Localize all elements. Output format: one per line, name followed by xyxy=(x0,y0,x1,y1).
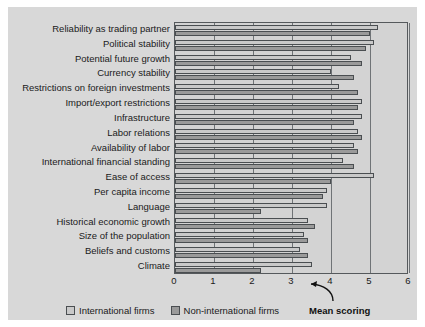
bar-row xyxy=(175,127,407,142)
bar-non-international-firms xyxy=(175,253,308,258)
bar-row xyxy=(175,23,407,38)
legend-label: Non-international firms xyxy=(184,305,280,316)
bar-row xyxy=(175,112,407,127)
bar-non-international-firms xyxy=(175,179,331,184)
bar-row xyxy=(175,53,407,68)
bar-row xyxy=(175,38,407,53)
bar-non-international-firms xyxy=(175,46,366,51)
bar-international-firms xyxy=(175,262,312,267)
chart-figure: Reliability as trading partnerPolitical … xyxy=(0,0,425,327)
bar-international-firms xyxy=(175,25,378,30)
bar-row xyxy=(175,260,407,275)
x-axis-tick-labels: 0123456 xyxy=(174,275,408,289)
bar-international-firms xyxy=(175,69,331,74)
bar-non-international-firms xyxy=(175,105,358,110)
x-axis-title: Mean scoring xyxy=(309,305,370,316)
bar-non-international-firms xyxy=(175,164,354,169)
bar-row xyxy=(175,142,407,157)
plot-area xyxy=(174,22,408,274)
chart-legend: International firms Non-international fi… xyxy=(66,302,370,318)
category-label: Per capita income xyxy=(94,187,170,197)
bar-international-firms xyxy=(175,55,351,60)
category-label: Ease of access xyxy=(106,172,170,182)
bar-international-firms xyxy=(175,203,327,208)
category-label: Political stability xyxy=(103,39,170,49)
x-tick-label: 6 xyxy=(405,275,410,286)
bar-row xyxy=(175,97,407,112)
x-tick-label: 2 xyxy=(249,275,254,286)
category-label: Language xyxy=(128,202,170,212)
bar-non-international-firms xyxy=(175,209,261,214)
legend-swatch-icon xyxy=(66,306,75,315)
bar-non-international-firms xyxy=(175,75,354,80)
x-tick-label: 5 xyxy=(366,275,371,286)
bar-row xyxy=(175,231,407,246)
category-label: Beliefs and customs xyxy=(85,246,170,256)
bar-non-international-firms xyxy=(175,224,315,229)
category-label: Currency stability xyxy=(97,68,170,78)
bar-non-international-firms xyxy=(175,238,308,243)
bar-row xyxy=(175,201,407,216)
bar-rows xyxy=(175,23,407,273)
bar-international-firms xyxy=(175,129,358,134)
x-tick-label: 1 xyxy=(210,275,215,286)
category-label: Import/export restrictions xyxy=(65,98,170,108)
bar-row xyxy=(175,245,407,260)
bar-international-firms xyxy=(175,114,362,119)
bar-international-firms xyxy=(175,143,354,148)
category-label: Restrictions on foreign investments xyxy=(22,83,170,93)
x-tick-label: 4 xyxy=(327,275,332,286)
bar-international-firms xyxy=(175,188,327,193)
bar-row xyxy=(175,171,407,186)
x-tick-label: 0 xyxy=(171,275,176,286)
category-label: Labor relations xyxy=(107,128,170,138)
category-label: Size of the population xyxy=(79,231,170,241)
bar-international-firms xyxy=(175,99,362,104)
chart-panel: Reliability as trading partnerPolitical … xyxy=(8,7,417,320)
legend-swatch-icon xyxy=(171,306,180,315)
bar-non-international-firms xyxy=(175,194,323,199)
bar-international-firms xyxy=(175,173,374,178)
category-label: International financial standing xyxy=(42,157,170,167)
bar-non-international-firms xyxy=(175,120,354,125)
category-label: Climate xyxy=(138,261,170,271)
legend-item-international-firms: International firms xyxy=(66,305,155,316)
bar-non-international-firms xyxy=(175,268,261,273)
legend-label: International firms xyxy=(79,305,155,316)
bar-international-firms xyxy=(175,232,304,237)
bar-international-firms xyxy=(175,218,308,223)
x-tick-label: 3 xyxy=(288,275,293,286)
category-label: Potential future growth xyxy=(75,54,170,64)
bar-international-firms xyxy=(175,84,339,89)
bar-row xyxy=(175,67,407,82)
bar-row xyxy=(175,156,407,171)
legend-item-non-international-firms: Non-international firms xyxy=(171,305,280,316)
bar-international-firms xyxy=(175,247,300,252)
category-label: Availability of labor xyxy=(91,143,170,153)
bar-non-international-firms xyxy=(175,61,362,66)
bar-row xyxy=(175,216,407,231)
bar-row xyxy=(175,82,407,97)
category-label: Historical economic growth xyxy=(56,217,170,227)
bar-non-international-firms xyxy=(175,31,370,36)
bar-row xyxy=(175,186,407,201)
bar-international-firms xyxy=(175,40,374,45)
category-label: Infrastructure xyxy=(114,113,170,123)
bar-non-international-firms xyxy=(175,90,358,95)
bar-international-firms xyxy=(175,158,343,163)
gridline xyxy=(409,23,410,273)
bar-non-international-firms xyxy=(175,135,362,140)
category-label: Reliability as trading partner xyxy=(52,24,170,34)
category-axis-labels: Reliability as trading partnerPolitical … xyxy=(18,22,170,274)
bar-non-international-firms xyxy=(175,149,358,154)
